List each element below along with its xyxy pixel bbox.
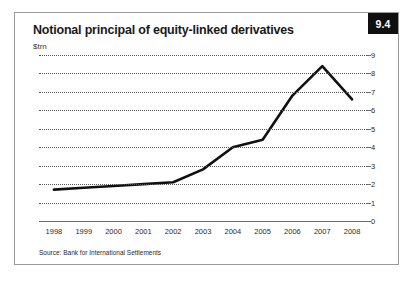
- x-axis-tick-label: 2003: [195, 227, 212, 236]
- x-axis-tick-label: 2008: [344, 227, 361, 236]
- y-axis-tick-label: 0: [371, 217, 389, 226]
- chart-panel: Notional principal of equity-linked deri…: [14, 12, 399, 265]
- series-line-chart: [39, 55, 367, 221]
- gridline: [39, 203, 367, 204]
- x-axis-tick-label: 2007: [314, 227, 331, 236]
- x-axis-tick-label: 1998: [46, 227, 63, 236]
- y-axis-tick-label: 5: [371, 124, 389, 133]
- gridline: [39, 55, 367, 56]
- y-axis-tick-label: 9: [371, 51, 389, 60]
- gridline: [39, 110, 367, 111]
- y-axis-tick-label: 2: [371, 180, 389, 189]
- figure-number-badge: 9.4: [368, 13, 398, 34]
- chart-subtitle: $trn: [33, 42, 47, 51]
- x-axis-line: [39, 221, 367, 222]
- chart-source: Source: Bank for International Settlemen…: [39, 249, 161, 256]
- gridline: [39, 166, 367, 167]
- y-axis-tick-label: 1: [371, 198, 389, 207]
- x-axis-tick-label: 2000: [105, 227, 122, 236]
- x-axis-labels: 1998199920002001200220032004200520062007…: [39, 227, 367, 241]
- gridline: [39, 73, 367, 74]
- chart-title: Notional principal of equity-linked deri…: [33, 23, 294, 37]
- y-axis-tick-label: 4: [371, 143, 389, 152]
- gridline: [39, 147, 367, 148]
- plot-area: 0123456789: [39, 55, 367, 221]
- x-axis-tick-label: 2001: [135, 227, 152, 236]
- gridline: [39, 184, 367, 185]
- x-axis-tick-label: 2002: [165, 227, 182, 236]
- gridline: [39, 129, 367, 130]
- x-axis-tick-label: 2004: [224, 227, 241, 236]
- y-axis-tick-label: 7: [371, 87, 389, 96]
- x-axis-tick-label: 1999: [75, 227, 92, 236]
- x-axis-tick-label: 2006: [284, 227, 301, 236]
- gridline: [39, 92, 367, 93]
- x-axis-tick-label: 2005: [254, 227, 271, 236]
- y-axis-tick-label: 6: [371, 106, 389, 115]
- y-axis-tick-label: 3: [371, 161, 389, 170]
- y-axis-tick-label: 8: [371, 69, 389, 78]
